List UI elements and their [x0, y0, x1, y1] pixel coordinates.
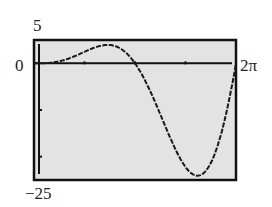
plot-area: [0, 0, 272, 207]
